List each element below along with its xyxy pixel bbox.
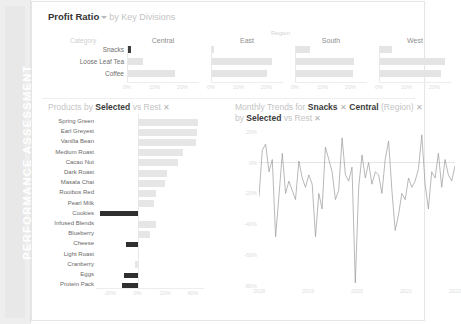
trends-x-tick: 2018 bbox=[253, 288, 265, 294]
product-bar[interactable] bbox=[138, 139, 196, 146]
top-tick-label: 20% bbox=[429, 84, 440, 90]
product-bar[interactable] bbox=[138, 170, 167, 177]
trends-x-tick: 2021 bbox=[400, 288, 412, 294]
chevron-down-icon[interactable] bbox=[101, 16, 107, 19]
sidebar-band: PERFORMANCE ASSESSMENT bbox=[0, 0, 31, 324]
close-icon-snacks[interactable]: ✕ bbox=[340, 103, 347, 112]
measure-label[interactable]: Profit Ratio bbox=[48, 11, 99, 22]
trends-x-tick: 2020 bbox=[351, 288, 363, 294]
top-tick-row: 0%10%20% bbox=[379, 84, 451, 94]
trends-x-tick: 2019 bbox=[302, 288, 314, 294]
trends-panel-title: Monthly Trends for Snacks ✕ Central (Reg… bbox=[235, 102, 460, 124]
top-region-subchart bbox=[127, 46, 199, 82]
top-region-panel: Region Category SnacksLoose Leaf TeaCoff… bbox=[32, 28, 424, 98]
top-bar[interactable] bbox=[128, 46, 131, 53]
product-label: Infused Blends bbox=[54, 220, 94, 226]
product-bar[interactable] bbox=[138, 200, 155, 207]
product-label: Masala Chai bbox=[61, 179, 94, 185]
trends-tag-snacks[interactable]: Snacks bbox=[308, 102, 338, 112]
product-bar[interactable] bbox=[126, 242, 137, 247]
trends-tag-central[interactable]: Central bbox=[349, 102, 378, 112]
close-icon-selected[interactable]: ✕ bbox=[314, 114, 321, 123]
product-tick-label: 40% bbox=[187, 290, 198, 296]
product-bar[interactable] bbox=[138, 231, 150, 238]
trends-plot-area bbox=[259, 124, 455, 286]
trends-y-tick: 0% bbox=[249, 160, 257, 166]
top-region-header: South bbox=[295, 37, 367, 44]
top-bar[interactable] bbox=[296, 70, 353, 77]
top-tick-label: 10% bbox=[149, 84, 160, 90]
trends-vs-rest: vs Rest bbox=[284, 113, 312, 123]
top-bar[interactable] bbox=[296, 46, 310, 53]
top-tick-label: 20% bbox=[261, 84, 272, 90]
region-caption: Region bbox=[271, 30, 290, 36]
product-bar[interactable] bbox=[138, 119, 199, 126]
close-icon[interactable]: ✕ bbox=[163, 103, 170, 112]
products-title-prefix: Products bbox=[48, 102, 82, 112]
top-bar[interactable] bbox=[212, 58, 272, 65]
top-bar[interactable] bbox=[212, 46, 214, 53]
trends-y-tick: 20% bbox=[246, 129, 257, 135]
trends-tag-region: (Region) bbox=[381, 102, 414, 112]
trends-y-tick: -40% bbox=[244, 221, 257, 227]
products-panel-title: Products by Selected vs Rest ✕ bbox=[48, 102, 170, 112]
product-tick-label: 0% bbox=[134, 290, 142, 296]
product-bar[interactable] bbox=[122, 283, 137, 288]
product-bar[interactable] bbox=[138, 190, 156, 197]
top-tick-label: 10% bbox=[317, 84, 328, 90]
top-baseline bbox=[379, 82, 451, 83]
product-label: Blueberry bbox=[68, 230, 94, 236]
product-label: Vanilla Bean bbox=[61, 138, 94, 144]
products-axis-line bbox=[96, 288, 204, 289]
product-label: Pearl Milk bbox=[68, 200, 94, 206]
top-bar[interactable] bbox=[128, 70, 175, 77]
products-selected-tag[interactable]: Selected bbox=[95, 102, 130, 112]
top-tick-label: 10% bbox=[401, 84, 412, 90]
top-tick-row: 0%10%20% bbox=[127, 84, 199, 94]
product-label: Dark Roast bbox=[64, 169, 94, 175]
product-label: Rooibos Red bbox=[59, 189, 94, 195]
page-title: Profit Ratioby Key Divisions bbox=[48, 11, 175, 22]
top-bar[interactable] bbox=[380, 46, 392, 53]
product-label: Earl Greyest bbox=[61, 128, 94, 134]
top-region-header: Central bbox=[127, 37, 199, 44]
top-bar[interactable] bbox=[212, 70, 267, 77]
product-bar[interactable] bbox=[100, 211, 137, 216]
product-bar[interactable] bbox=[138, 221, 156, 228]
product-label: Eggs bbox=[80, 271, 94, 277]
top-tick-row: 0%10%20% bbox=[211, 84, 283, 94]
product-bar[interactable] bbox=[138, 159, 178, 166]
trends-title-prefix: Monthly Trends bbox=[235, 102, 293, 112]
top-baseline bbox=[127, 82, 199, 83]
product-label: Cheese bbox=[73, 240, 94, 246]
top-category-label: Coffee bbox=[105, 70, 124, 77]
product-bar[interactable] bbox=[138, 129, 198, 136]
top-region-header: East bbox=[211, 37, 283, 44]
product-bar[interactable] bbox=[124, 273, 138, 278]
product-tick-label: 20% bbox=[160, 290, 171, 296]
top-bar[interactable] bbox=[380, 58, 445, 65]
top-region-header: West bbox=[379, 37, 451, 44]
main-card: Profit Ratioby Key Divisions Region Cate… bbox=[31, 1, 425, 321]
trends-selected-tag[interactable]: Selected bbox=[246, 113, 281, 123]
close-icon-central[interactable]: ✕ bbox=[416, 103, 423, 112]
products-bar-chart: Spring GreenEarl GreyestVanilla BeanMedi… bbox=[32, 114, 208, 310]
trends-series-line[interactable] bbox=[259, 135, 455, 283]
top-region-subchart bbox=[379, 46, 451, 82]
top-tick-label: 0% bbox=[123, 84, 131, 90]
product-bar[interactable] bbox=[138, 149, 184, 156]
trends-x-tick: 2022 bbox=[449, 288, 461, 294]
top-bar[interactable] bbox=[296, 58, 354, 65]
product-label: Cookies bbox=[72, 210, 94, 216]
panel-divider bbox=[42, 98, 416, 99]
product-bar[interactable] bbox=[138, 251, 140, 258]
trends-y-tick: -20% bbox=[244, 190, 257, 196]
trends-title-for: for bbox=[296, 102, 306, 112]
top-bar[interactable] bbox=[380, 70, 441, 77]
top-bar[interactable] bbox=[128, 58, 143, 65]
product-bar[interactable] bbox=[138, 180, 166, 187]
trends-title-by: by bbox=[235, 113, 244, 123]
top-tick-label: 20% bbox=[177, 84, 188, 90]
trends-line-svg bbox=[259, 124, 455, 286]
product-bar[interactable] bbox=[135, 261, 138, 268]
